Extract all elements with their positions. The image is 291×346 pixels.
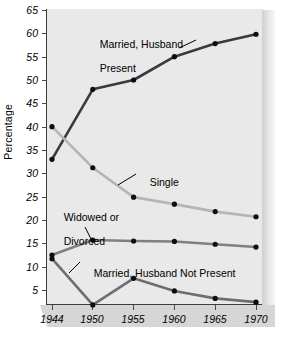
- y-tick-label: 30: [16, 168, 38, 178]
- series-label-single: Single: [138, 164, 179, 200]
- label-text-line2: Present: [100, 62, 136, 74]
- y-tick-label: 20: [16, 215, 38, 225]
- y-tick-mark: [42, 220, 46, 221]
- y-tick-label: 55: [16, 52, 38, 62]
- series-label-married-husband-not-present: Married, Husband Not Present: [82, 255, 236, 291]
- y-axis-title: Percentage: [2, 104, 14, 160]
- x-tick-mark: [256, 305, 257, 310]
- x-tick-mark: [174, 305, 175, 310]
- y-tick-label: 25: [16, 192, 38, 202]
- y-tick-label: 50: [16, 75, 38, 85]
- y-tick-mark: [42, 10, 46, 11]
- y-axis-line: [46, 9, 47, 305]
- panel-right-face: [262, 9, 275, 305]
- y-tick-label: 40: [16, 122, 38, 132]
- y-tick-mark: [42, 267, 46, 268]
- x-tick-label: 1955: [113, 313, 153, 325]
- label-text-line2: Divorced: [64, 235, 105, 247]
- label-text-line1: Widowed or: [64, 211, 119, 223]
- y-tick-mark: [42, 80, 46, 81]
- y-tick-mark: [42, 103, 46, 104]
- x-axis-line: [46, 304, 262, 305]
- y-tick-label: 5: [16, 285, 38, 295]
- series-label-widowed-or-divorced: Widowed or Divorced: [52, 199, 119, 259]
- x-tick-mark: [92, 305, 93, 310]
- x-tick-label: 1970: [236, 313, 276, 325]
- x-tick-label: 1960: [154, 313, 194, 325]
- y-tick-label: 65: [16, 5, 38, 15]
- label-text-line1: Married, Husband: [100, 38, 183, 50]
- y-tick-label: 60: [16, 28, 38, 38]
- y-tick-label: 35: [16, 145, 38, 155]
- y-tick-mark: [42, 243, 46, 244]
- y-tick-label: 45: [16, 98, 38, 108]
- x-tick-label: 1965: [195, 313, 235, 325]
- y-tick-mark: [42, 57, 46, 58]
- label-text: Single: [150, 176, 179, 188]
- x-tick-mark: [133, 305, 134, 310]
- y-tick-label: 10: [16, 262, 38, 272]
- y-tick-mark: [42, 173, 46, 174]
- x-tick-label: 1944: [32, 313, 72, 325]
- y-tick-mark: [42, 33, 46, 34]
- y-tick-mark: [42, 197, 46, 198]
- label-text: Married, Husband Not Present: [94, 267, 236, 279]
- x-tick-mark: [52, 305, 53, 310]
- y-tick-mark: [42, 290, 46, 291]
- y-tick-label: 15: [16, 238, 38, 248]
- series-label-married-husband-present: Married, Husband Present: [88, 26, 183, 86]
- y-tick-mark: [42, 150, 46, 151]
- line-chart: Percentage 65 60 55 50 45 40 35 30 25 20…: [0, 0, 291, 346]
- x-tick-label: 1950: [72, 313, 112, 325]
- x-tick-mark: [215, 305, 216, 310]
- y-tick-mark: [42, 127, 46, 128]
- panel-top-bevel: [262, 2, 275, 10]
